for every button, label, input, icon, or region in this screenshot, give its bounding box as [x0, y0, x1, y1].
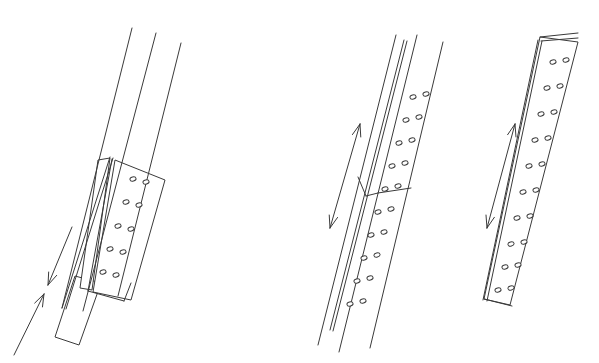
technical-drawing-canvas	[0, 0, 599, 363]
arrow-down-head-end-barb-2	[48, 272, 49, 285]
